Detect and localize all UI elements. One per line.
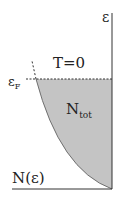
density-of-states-diagram: ε T=0 εF Ntot N(ε): [0, 0, 116, 202]
energy-axis-label: ε: [102, 9, 109, 25]
dos-axis-label: N(ε): [12, 169, 45, 187]
dos-curve-extension: [32, 61, 36, 79]
fermi-level-label: εF: [8, 74, 21, 91]
occupied-states-region: [36, 79, 112, 189]
temperature-label: T=0: [53, 54, 85, 72]
